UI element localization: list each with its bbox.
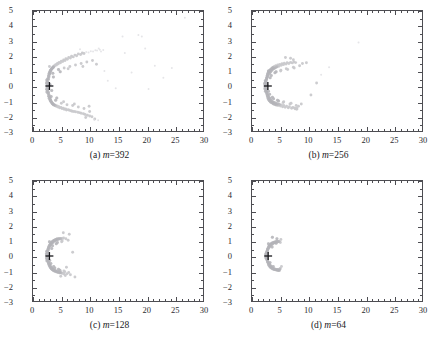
x-tick-minor bbox=[199, 11, 200, 13]
x-tick-minor bbox=[44, 181, 45, 183]
x-tick-label: 0 bbox=[239, 136, 263, 145]
y-tick-minor bbox=[420, 95, 422, 96]
x-tick-mark bbox=[395, 297, 396, 301]
x-tick-minor bbox=[372, 299, 373, 301]
x-tick-minor bbox=[286, 181, 287, 183]
scatter-point bbox=[74, 64, 77, 67]
x-tick-minor bbox=[413, 129, 414, 131]
scatter-layer-d bbox=[252, 181, 422, 301]
caption-value-b: =256 bbox=[329, 150, 349, 160]
y-tick-minor bbox=[201, 80, 203, 81]
x-tick-minor bbox=[355, 129, 356, 131]
y-tick-minor bbox=[252, 265, 254, 266]
x-tick-label: 20 bbox=[135, 136, 159, 145]
x-tick-minor bbox=[108, 129, 109, 131]
y-tick-label: −1 bbox=[210, 267, 232, 276]
x-tick-minor bbox=[384, 129, 385, 131]
x-tick-minor bbox=[159, 181, 160, 183]
scatter-point bbox=[137, 34, 139, 36]
y-tick-label: −2 bbox=[0, 113, 13, 122]
x-tick-mark bbox=[281, 297, 282, 301]
x-tick-minor bbox=[355, 181, 356, 183]
x-tick-minor bbox=[199, 129, 200, 131]
y-tick-minor bbox=[201, 265, 203, 266]
x-tick-minor bbox=[50, 299, 51, 301]
scatter-point bbox=[282, 104, 285, 107]
y-tick-mark bbox=[33, 242, 37, 243]
y-tick-mark bbox=[199, 57, 203, 58]
y-tick-label: −1 bbox=[0, 267, 13, 276]
x-tick-mark bbox=[148, 181, 149, 185]
scatter-point bbox=[292, 58, 295, 61]
scatter-point bbox=[74, 276, 77, 279]
x-tick-minor bbox=[113, 11, 114, 13]
x-tick-label: 30 bbox=[411, 136, 435, 145]
scatter-point bbox=[184, 17, 186, 19]
scatter-point bbox=[88, 105, 91, 108]
x-tick-minor bbox=[102, 299, 103, 301]
x-tick-label: 20 bbox=[135, 306, 159, 315]
x-tick-mark bbox=[367, 181, 368, 185]
x-tick-minor bbox=[44, 11, 45, 13]
x-tick-minor bbox=[56, 299, 57, 301]
x-tick-minor bbox=[125, 299, 126, 301]
x-tick-minor bbox=[188, 299, 189, 301]
x-tick-mark bbox=[252, 297, 253, 301]
scatter-point bbox=[95, 63, 98, 66]
y-tick-label: −2 bbox=[210, 283, 232, 292]
x-tick-label: 5 bbox=[49, 136, 73, 145]
y-tick-label: −3 bbox=[0, 298, 13, 307]
x-tick-minor bbox=[182, 129, 183, 131]
scatter-point-dense bbox=[50, 95, 53, 98]
x-tick-minor bbox=[67, 129, 68, 131]
scatter-point-dense bbox=[275, 237, 278, 240]
x-tick-label: 10 bbox=[77, 306, 101, 315]
x-tick-minor bbox=[113, 129, 114, 131]
scatter-point bbox=[94, 49, 96, 51]
x-tick-minor bbox=[113, 181, 114, 183]
x-tick-minor bbox=[304, 299, 305, 301]
y-tick-minor bbox=[420, 34, 422, 35]
scatter-point bbox=[84, 113, 87, 116]
x-tick-minor bbox=[67, 181, 68, 183]
x-tick-minor bbox=[165, 181, 166, 183]
panel-c: (c) m=128 543210−1−2−3051015202530 bbox=[0, 170, 219, 340]
x-tick-mark bbox=[176, 181, 177, 185]
x-tick-label: 0 bbox=[239, 306, 263, 315]
y-tick-minor bbox=[33, 250, 35, 251]
x-tick-minor bbox=[102, 11, 103, 13]
x-tick-minor bbox=[407, 129, 408, 131]
x-tick-minor bbox=[413, 181, 414, 183]
scatter-point bbox=[300, 103, 303, 106]
x-tick-minor bbox=[73, 129, 74, 131]
scatter-point bbox=[67, 108, 70, 111]
x-tick-minor bbox=[390, 181, 391, 183]
x-tick-minor bbox=[321, 129, 322, 131]
scatter-layer-c bbox=[33, 181, 203, 301]
x-tick-minor bbox=[258, 299, 259, 301]
y-tick-minor bbox=[420, 189, 422, 190]
x-tick-minor bbox=[159, 129, 160, 131]
x-tick-mark bbox=[119, 297, 120, 301]
x-tick-minor bbox=[39, 129, 40, 131]
scatter-point-dense bbox=[267, 90, 270, 93]
x-tick-minor bbox=[355, 299, 356, 301]
x-tick-minor bbox=[136, 129, 137, 131]
scatter-point-dense bbox=[57, 268, 60, 271]
x-tick-minor bbox=[378, 129, 379, 131]
x-tick-minor bbox=[321, 299, 322, 301]
x-tick-label: 30 bbox=[192, 306, 216, 315]
x-tick-minor bbox=[327, 11, 328, 13]
x-tick-mark bbox=[33, 297, 34, 301]
y-tick-mark bbox=[33, 57, 37, 58]
x-tick-minor bbox=[378, 299, 379, 301]
x-tick-minor bbox=[153, 11, 154, 13]
scatter-point-dense bbox=[264, 79, 267, 82]
y-tick-mark bbox=[418, 227, 422, 228]
scatter-point bbox=[282, 100, 285, 103]
y-tick-label: 2 bbox=[0, 222, 13, 231]
y-tick-minor bbox=[33, 189, 35, 190]
x-tick-minor bbox=[142, 181, 143, 183]
y-tick-minor bbox=[201, 189, 203, 190]
x-tick-mark bbox=[281, 181, 282, 185]
